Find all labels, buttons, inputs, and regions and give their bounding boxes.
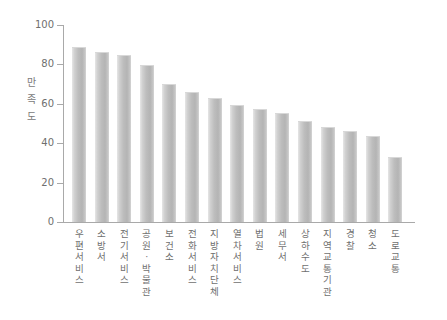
x-axis-tick-label-char: 비	[233, 263, 242, 275]
y-axis-tick-mark	[57, 104, 63, 105]
x-axis-tick-label-char: 화	[188, 240, 197, 252]
bar	[162, 84, 176, 222]
x-axis-tick-label-char: 스	[75, 274, 84, 286]
bar	[298, 121, 312, 222]
y-axis-title-char-3: 도	[27, 112, 36, 122]
x-axis-tick-label-char: 로	[391, 240, 400, 252]
x-axis-tick-label-char: 서	[278, 251, 287, 263]
x-axis-tick-label-char: 통	[323, 263, 332, 275]
x-axis-tick-label-char: 공	[142, 228, 151, 240]
x-axis-tick-label: 세무서	[275, 228, 289, 263]
x-axis-tick-label: 상하수도	[298, 228, 312, 274]
x-axis-tick-label: 보건소	[162, 228, 176, 263]
bar	[253, 109, 267, 222]
bar	[366, 136, 380, 222]
y-axis-title-char-2: 족	[27, 95, 36, 105]
y-axis-tick-label: 80	[41, 59, 54, 69]
x-axis-tick-label-char: 편	[75, 240, 84, 252]
x-axis-tick-label-char: 박	[142, 263, 151, 275]
x-axis-tick-label-char: 비	[120, 263, 129, 275]
x-axis-tick-label-char: 열	[233, 228, 242, 240]
x-axis-tick-label-char: 스	[188, 274, 197, 286]
x-axis-tick-label-char: 전	[188, 228, 197, 240]
bar-chart-figure: 만 족 도 020406080100 우편서비스소방서전기서비스공원·박물관보건…	[0, 0, 447, 320]
x-axis-tick-label: 도로교통	[388, 228, 402, 274]
y-axis-tick-mark	[57, 143, 63, 144]
x-axis-tick-label-char: 체	[210, 286, 219, 298]
x-axis-tick-label-char: 교	[391, 251, 400, 263]
x-axis-tick-label-char: 역	[323, 240, 332, 252]
x-axis-tick-label-char: 세	[278, 228, 287, 240]
bar	[140, 65, 154, 222]
x-axis-tick-label-char: 관	[323, 286, 332, 298]
x-axis-tick-label-char: 도	[301, 263, 310, 275]
y-axis-tick-label: 0	[48, 217, 54, 227]
x-axis-tick-label-char: 단	[210, 274, 219, 286]
x-axis-tick-label-char: 서	[75, 251, 84, 263]
y-axis-title: 만 족 도	[22, 78, 40, 122]
x-axis-tick-label: 우편서비스	[72, 228, 86, 286]
y-axis-title-char-1: 만	[27, 78, 36, 88]
x-axis-tick-label: 경찰	[343, 228, 357, 251]
bar	[230, 105, 244, 222]
x-axis-tick-label-char: 기	[323, 274, 332, 286]
x-axis-tick-labels: 우편서비스소방서전기서비스공원·박물관보건소전화서비스지방자치단체열차서비스법원…	[64, 228, 415, 320]
x-axis-tick-label-char: 원	[255, 240, 264, 252]
x-axis-tick-label: 소방서	[95, 228, 109, 263]
bar	[72, 47, 86, 222]
y-axis-tick-label: 40	[41, 138, 54, 148]
x-axis-tick-label-char: 치	[210, 263, 219, 275]
x-axis-tick-label: 청소	[366, 228, 380, 251]
x-axis-tick-label: 전기서비스	[117, 228, 131, 286]
x-axis-tick-label-char: 물	[142, 274, 151, 286]
x-axis-tick-label-char: 관	[142, 286, 151, 298]
x-axis-tick-label-char: 기	[120, 240, 129, 252]
bar	[388, 157, 402, 222]
bar-series	[64, 25, 415, 222]
x-axis-tick-label: 전화서비스	[185, 228, 199, 286]
x-axis-tick-label-char: 통	[391, 263, 400, 275]
x-axis-tick-label-char: 소	[368, 240, 377, 252]
x-axis-tick-label-char: 방	[210, 240, 219, 252]
x-axis-tick-label-char: 방	[97, 240, 106, 252]
x-axis-tick-label-char: 비	[188, 263, 197, 275]
bar	[321, 127, 335, 222]
x-axis-tick-label-char: 무	[278, 240, 287, 252]
y-axis-tick-label: 60	[41, 99, 54, 109]
y-axis-tick-mark	[57, 222, 63, 223]
x-axis-tick-label-char: 법	[255, 228, 264, 240]
x-axis-tick-label-char: ·	[145, 251, 148, 263]
x-axis-tick-label: 열차서비스	[230, 228, 244, 286]
x-axis-tick-label-char: 소	[165, 251, 174, 263]
x-axis-tick-label-char: 상	[301, 228, 310, 240]
x-axis-line	[63, 222, 415, 223]
bar	[275, 113, 289, 222]
bar	[343, 131, 357, 222]
x-axis-tick-label-char: 청	[368, 228, 377, 240]
plot-area: 020406080100	[63, 25, 415, 222]
x-axis-tick-label-char: 건	[165, 240, 174, 252]
x-axis-tick-label-char: 경	[346, 228, 355, 240]
x-axis-tick-label: 법원	[253, 228, 267, 251]
x-axis-tick-label-char: 서	[188, 251, 197, 263]
x-axis-tick-label-char: 도	[391, 228, 400, 240]
bar	[185, 92, 199, 222]
x-axis-tick-label-char: 보	[165, 228, 174, 240]
x-axis-tick-label: 지역교통기관	[321, 228, 335, 297]
x-axis-tick-label-char: 지	[210, 228, 219, 240]
x-axis-tick-label: 지방자치단체	[208, 228, 222, 297]
y-axis-tick-label: 100	[35, 20, 54, 30]
x-axis-tick-label: 공원·박물관	[140, 228, 154, 297]
y-axis-tick-mark	[57, 183, 63, 184]
x-axis-tick-label-char: 찰	[346, 240, 355, 252]
x-axis-tick-label-char: 자	[210, 251, 219, 263]
x-axis-tick-label-char: 스	[233, 274, 242, 286]
bar	[117, 55, 131, 222]
x-axis-tick-label-char: 소	[97, 228, 106, 240]
x-axis-tick-label-char: 하	[301, 240, 310, 252]
x-axis-tick-label-char: 전	[120, 228, 129, 240]
x-axis-tick-label-char: 우	[75, 228, 84, 240]
x-axis-tick-label-char: 서	[233, 251, 242, 263]
y-axis-tick-label: 20	[41, 178, 54, 188]
x-axis-tick-label-char: 스	[120, 274, 129, 286]
